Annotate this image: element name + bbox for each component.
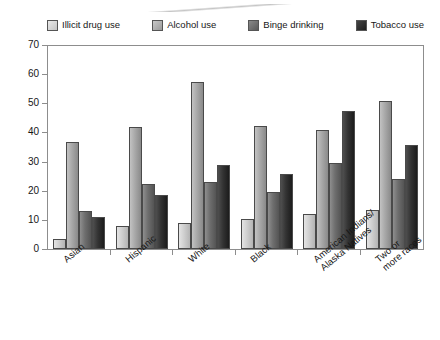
bar-1-1 — [129, 127, 142, 249]
legend-label: Alcohol use — [167, 20, 216, 30]
bar-3-0 — [241, 219, 254, 249]
legend-item-2: Binge drinking — [248, 20, 323, 31]
bar-5-1 — [379, 101, 392, 249]
legend-swatch-icon — [248, 20, 259, 31]
bar-2-3 — [217, 165, 230, 249]
bar-2-2 — [204, 182, 217, 249]
bar-2-0 — [178, 223, 191, 249]
bar-0-0 — [53, 239, 66, 249]
legend-label: Binge drinking — [263, 20, 323, 30]
bar-group-3 — [236, 46, 299, 249]
y-axis: 706050403020100 — [0, 45, 47, 250]
bar-3-3 — [280, 174, 293, 249]
chart-legend: Illicit drug useAlcohol useBinge drinkin… — [47, 17, 424, 33]
bar-2-1 — [191, 82, 204, 249]
legend-swatch-icon — [152, 20, 163, 31]
bar-3-1 — [254, 126, 267, 249]
x-axis-labels: AsianHispanicWhiteBlackAmerican Indians/… — [0, 250, 440, 340]
bar-0-1 — [66, 142, 79, 249]
legend-swatch-icon — [356, 20, 367, 31]
grouped-bar-chart: Illicit drug useAlcohol useBinge drinkin… — [0, 0, 440, 340]
y-axis-tick-label: 30 — [28, 156, 39, 167]
bar-4-0 — [303, 214, 316, 249]
bar-1-0 — [116, 226, 129, 249]
y-axis-tick-label: 10 — [28, 214, 39, 225]
y-axis-tick-label: 60 — [28, 68, 39, 79]
legend-label: Illicit drug use — [62, 20, 120, 30]
bar-0-3 — [92, 217, 105, 249]
bar-group-1 — [111, 46, 174, 249]
y-axis-tick-label: 70 — [28, 39, 39, 50]
y-axis-tick-label: 50 — [28, 97, 39, 108]
y-axis-tick-label: 40 — [28, 126, 39, 137]
bar-group-2 — [173, 46, 236, 249]
bar-group-0 — [48, 46, 111, 249]
legend-item-1: Alcohol use — [152, 20, 216, 31]
legend-label: Tobacco use — [371, 20, 424, 30]
legend-item-3: Tobacco use — [356, 20, 424, 31]
bar-group-4 — [298, 46, 361, 249]
bar-4-1 — [316, 130, 329, 249]
legend-swatch-icon — [47, 20, 58, 31]
bar-3-2 — [267, 192, 280, 249]
legend-item-0: Illicit drug use — [47, 20, 120, 31]
y-axis-tick-label: 20 — [28, 185, 39, 196]
